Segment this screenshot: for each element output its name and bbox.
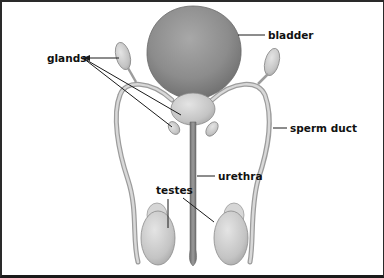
label-glands: glands — [47, 52, 86, 64]
prostate-gland — [171, 93, 215, 125]
label-bladder: bladder — [268, 29, 314, 41]
label-urethra: urethra — [218, 170, 263, 182]
bladder — [147, 6, 241, 100]
label-sperm-duct: sperm duct — [290, 122, 357, 134]
reproductive-system-diagram: glands bladder sperm duct urethra testes — [0, 0, 384, 278]
label-testes: testes — [156, 184, 193, 196]
